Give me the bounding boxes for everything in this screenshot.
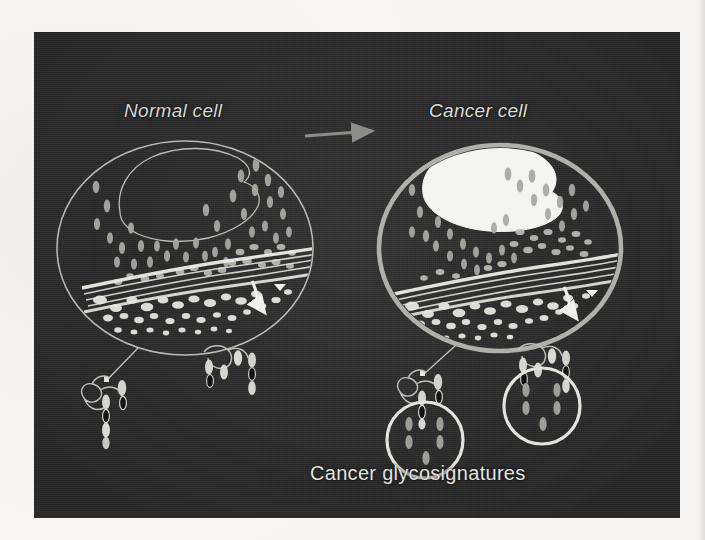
page-edge-shadow bbox=[699, 0, 705, 540]
normal-cell-label: Normal cell bbox=[124, 100, 222, 122]
cancer-glycosignatures-label: Cancer glycosignatures bbox=[310, 462, 526, 485]
cancer-cell-label: Cancer cell bbox=[429, 100, 527, 122]
figure-root: Normal cell Cancer cell Cancer glycosign… bbox=[0, 0, 705, 540]
